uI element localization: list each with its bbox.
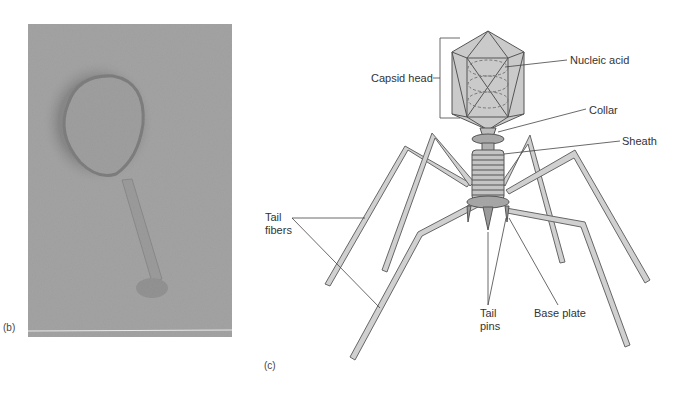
label-collar: Collar xyxy=(589,104,618,117)
label-base-plate: Base plate xyxy=(534,307,586,320)
label-sheath: Sheath xyxy=(622,135,657,148)
label-nucleic-acid: Nucleic acid xyxy=(570,54,629,67)
panel-label-c: (c) xyxy=(264,360,276,371)
label-tail-pins-line2: pins xyxy=(480,320,500,333)
label-tail-fibers: Tail fibers xyxy=(265,211,292,237)
label-capsid-head: Capsid head xyxy=(371,72,433,85)
label-tail-pins-line1: Tail xyxy=(480,307,500,320)
label-tail-pins: Tail pins xyxy=(480,307,500,333)
capsid-head xyxy=(452,31,524,130)
label-tail-fibers-line2: fibers xyxy=(265,224,292,237)
base-plate xyxy=(467,196,509,230)
label-tail-fibers-line1: Tail xyxy=(265,211,292,224)
sheath xyxy=(472,150,504,200)
